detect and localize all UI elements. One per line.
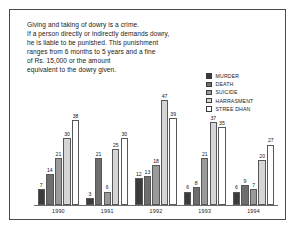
- chart-figure: Giving and taking of dowry is a crime. I…: [9, 9, 286, 220]
- bar-item[interactable]: 30: [63, 84, 70, 205]
- bar[interactable]: [72, 120, 79, 205]
- bar-group: 32162530: [83, 84, 132, 205]
- bar[interactable]: [112, 149, 119, 205]
- bar-group: 1213184739: [132, 84, 181, 205]
- bar[interactable]: [218, 127, 225, 205]
- bar-item[interactable]: 9: [241, 84, 248, 205]
- bar-item[interactable]: 8: [193, 84, 200, 205]
- bar-item[interactable]: 30: [121, 84, 128, 205]
- bar-value-label: 21: [202, 152, 208, 157]
- bar-item[interactable]: 20: [258, 84, 265, 205]
- bar[interactable]: [135, 178, 142, 205]
- bar[interactable]: [161, 100, 168, 205]
- bar[interactable]: [193, 187, 200, 205]
- bar-item[interactable]: 38: [72, 84, 79, 205]
- bar-value-label: 14: [47, 168, 53, 173]
- bar-value-label: 25: [113, 143, 119, 148]
- bar-value-label: 6: [106, 185, 109, 190]
- x-axis-label: 1991: [83, 208, 132, 214]
- bar[interactable]: [210, 122, 217, 205]
- legend-label-murder: MURDER: [216, 73, 240, 79]
- bar[interactable]: [104, 192, 111, 205]
- x-axis-label: 1992: [132, 208, 181, 214]
- bar-item[interactable]: 14: [46, 84, 53, 205]
- bar-item[interactable]: 25: [112, 84, 119, 205]
- bar-item[interactable]: 21: [55, 84, 62, 205]
- bar-item[interactable]: 6: [104, 84, 111, 205]
- bar-item[interactable]: 6: [233, 84, 240, 205]
- caption-text: Giving and taking of dowry is a crime. I…: [27, 20, 212, 75]
- bar[interactable]: [241, 185, 248, 205]
- bar[interactable]: [63, 138, 70, 205]
- bar[interactable]: [121, 138, 128, 205]
- x-axis-label: 1994: [229, 208, 278, 214]
- bar-value-label: 6: [186, 185, 189, 190]
- bar[interactable]: [144, 176, 151, 205]
- bar[interactable]: [55, 158, 62, 205]
- x-axis-labels: 19901991199219931994: [34, 208, 278, 214]
- legend-swatch-murder: [206, 73, 212, 79]
- bar-item[interactable]: 37: [210, 84, 217, 205]
- bar-value-label: 21: [56, 152, 62, 157]
- bar-value-label: 9: [244, 179, 247, 184]
- bar-group: 6972027: [229, 84, 278, 205]
- legend-item-murder[interactable]: MURDER: [206, 72, 284, 80]
- bar-group: 714213038: [34, 84, 83, 205]
- x-axis-label: 1990: [34, 208, 83, 214]
- bar-groups: 7142130383216253012131847396821373569720…: [34, 84, 278, 205]
- bar[interactable]: [95, 158, 102, 205]
- bar[interactable]: [169, 118, 176, 205]
- bar[interactable]: [184, 192, 191, 205]
- bar-value-label: 20: [259, 154, 265, 159]
- bar-item[interactable]: 7: [38, 84, 45, 205]
- bar[interactable]: [86, 198, 93, 205]
- bar-value-label: 38: [73, 114, 79, 119]
- bar-value-label: 13: [145, 170, 151, 175]
- bar-item[interactable]: 12: [135, 84, 142, 205]
- bar-item[interactable]: 35: [218, 84, 225, 205]
- bar-value-label: 8: [195, 181, 198, 186]
- bar-item[interactable]: 47: [161, 84, 168, 205]
- bar[interactable]: [201, 158, 208, 205]
- bar-item[interactable]: 7: [250, 84, 257, 205]
- bar-value-label: 39: [170, 112, 176, 117]
- bar-item[interactable]: 13: [144, 84, 151, 205]
- bar[interactable]: [46, 174, 53, 205]
- bar-value-label: 3: [89, 192, 92, 197]
- plot-area: 7142130383216253012131847396821373569720…: [34, 84, 278, 206]
- bar[interactable]: [250, 189, 257, 205]
- bar[interactable]: [152, 165, 159, 205]
- bar-value-label: 6: [235, 185, 238, 190]
- bar-item[interactable]: 39: [169, 84, 176, 205]
- bar-value-label: 12: [136, 172, 142, 177]
- bar-item[interactable]: 3: [86, 84, 93, 205]
- bar-item[interactable]: 6: [184, 84, 191, 205]
- x-axis-label: 1993: [180, 208, 229, 214]
- bar-item[interactable]: 21: [95, 84, 102, 205]
- bar-value-label: 7: [40, 183, 43, 188]
- bar-group: 68213735: [180, 84, 229, 205]
- bar[interactable]: [267, 145, 274, 205]
- bar-item[interactable]: 27: [267, 84, 274, 205]
- bar-value-label: 27: [268, 138, 274, 143]
- bar[interactable]: [38, 189, 45, 205]
- bar-value-label: 30: [64, 132, 70, 137]
- bar-value-label: 47: [162, 94, 168, 99]
- bar[interactable]: [258, 160, 265, 205]
- bar[interactable]: [233, 192, 240, 205]
- bar-item[interactable]: 18: [152, 84, 159, 205]
- x-axis-line: [34, 205, 278, 206]
- bar-value-label: 7: [252, 183, 255, 188]
- bar-item[interactable]: 21: [201, 84, 208, 205]
- bar-value-label: 21: [96, 152, 102, 157]
- bar-value-label: 37: [211, 116, 217, 121]
- bar-value-label: 30: [122, 132, 128, 137]
- bar-value-label: 18: [153, 159, 159, 164]
- bar-value-label: 35: [219, 121, 225, 126]
